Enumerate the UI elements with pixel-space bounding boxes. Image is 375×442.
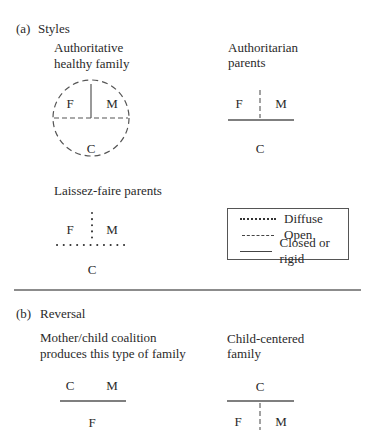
mother-label: M	[275, 415, 287, 429]
section-a-marker: (a)	[16, 21, 30, 37]
child-label: C	[87, 142, 96, 156]
father-label: F	[235, 97, 242, 111]
mother-label: M	[275, 97, 287, 111]
legend-item-closed: Closed or rigid	[236, 243, 348, 259]
authoritarian-title-line2: parents	[228, 55, 266, 71]
father-label: F	[66, 97, 73, 111]
father-label: F	[88, 416, 95, 430]
laissez-faire-title: Laissez-faire parents	[54, 183, 162, 199]
father-label: F	[234, 415, 241, 429]
section-b-marker: (b)	[16, 306, 31, 322]
legend-label: Closed or rigid	[280, 235, 348, 267]
child-label: C	[66, 379, 75, 393]
legend-label: Diffuse	[284, 211, 323, 227]
child-centered-title-line2: family	[227, 346, 261, 362]
child-centered-title-line1: Child-centered	[227, 331, 304, 347]
mother-label: M	[106, 97, 118, 111]
solid-line-sample	[240, 251, 272, 252]
mother-label: M	[106, 379, 118, 393]
coalition-title-line1: Mother/child coalition	[40, 330, 157, 346]
coalition-title-line2: produces this type of family	[40, 346, 186, 362]
authoritative-title-line2: healthy family	[54, 56, 129, 72]
dashed-line-sample	[242, 235, 274, 236]
legend-box: Diffuse Open Closed or rigid	[227, 208, 349, 260]
section-b-title: Reversal	[40, 306, 85, 322]
child-label: C	[256, 380, 265, 394]
mother-label: M	[106, 223, 118, 237]
section-a-title: Styles	[38, 21, 70, 37]
father-label: F	[66, 223, 73, 237]
child-label: C	[256, 142, 265, 156]
legend-item-diffuse: Diffuse	[236, 211, 323, 227]
dotted-line-sample	[240, 218, 276, 220]
authoritarian-title-line1: Authoritarian	[228, 40, 298, 56]
authoritative-title-line1: Authoritative	[54, 40, 123, 56]
child-label: C	[88, 263, 97, 277]
